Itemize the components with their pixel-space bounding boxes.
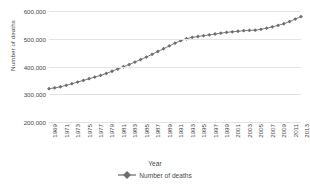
data-point-marker — [70, 82, 74, 86]
data-point-marker — [293, 17, 297, 21]
y-axis-tick-label: 600,000 — [0, 8, 46, 15]
data-point-marker — [156, 50, 160, 54]
gridline — [49, 94, 301, 95]
data-point-marker — [270, 25, 274, 29]
x-axis-tick-label: 1973 — [74, 124, 81, 138]
data-point-marker — [213, 32, 217, 36]
data-point-marker — [144, 55, 148, 59]
data-point-marker — [259, 27, 263, 31]
data-point-marker — [225, 30, 229, 34]
data-point-marker — [230, 30, 234, 34]
x-axis-tick-label: 1999 — [223, 124, 230, 138]
gridline — [49, 11, 301, 12]
data-point-marker — [99, 73, 103, 77]
x-axis-ticks: 1969197119731975197719791981198319851987… — [49, 124, 301, 158]
gridline — [49, 67, 301, 68]
x-axis-tick-label: 1987 — [154, 124, 161, 138]
x-axis-tick-label: 1989 — [166, 124, 173, 138]
data-point-marker — [150, 52, 154, 56]
x-axis-tick-label: 2005 — [257, 124, 264, 138]
data-point-marker — [162, 47, 166, 51]
x-axis-tick-label: 2011 — [292, 124, 299, 137]
data-point-marker — [47, 87, 51, 91]
x-axis-tick-label: 1985 — [143, 124, 150, 138]
x-axis-tick-label: 1971 — [63, 124, 70, 138]
data-point-marker — [265, 26, 269, 30]
data-point-marker — [207, 33, 211, 37]
x-axis-tick-label: 1993 — [189, 124, 196, 138]
x-axis-tick-label: 1975 — [86, 124, 93, 138]
data-point-marker — [64, 83, 68, 87]
data-point-marker — [288, 20, 292, 24]
data-point-marker — [253, 28, 257, 32]
data-point-marker — [76, 80, 80, 84]
data-point-marker — [248, 29, 252, 33]
data-point-marker — [276, 24, 280, 28]
x-axis-tick-label: 1983 — [131, 124, 138, 138]
data-point-marker — [236, 29, 240, 33]
x-axis-tick-label: 1969 — [51, 124, 58, 138]
x-axis-tick-label: 1981 — [120, 124, 127, 138]
y-axis-tick-label: 500,000 — [0, 35, 46, 42]
data-point-marker — [93, 75, 97, 79]
x-axis-tick-label: 2003 — [246, 124, 253, 138]
x-axis-tick-label: 2009 — [280, 124, 287, 138]
data-point-marker — [59, 85, 63, 89]
line-diamond-marker-icon — [118, 171, 136, 179]
line-chart: Number of deaths 600,000500,000400,00030… — [0, 0, 310, 189]
data-point-marker — [81, 78, 85, 82]
x-axis-tick-label: 1995 — [200, 124, 207, 138]
data-point-marker — [87, 77, 91, 81]
data-point-marker — [133, 60, 137, 64]
x-axis-tick-label: 1991 — [177, 124, 184, 138]
x-axis-tick-label: 2001 — [234, 124, 241, 138]
data-point-marker — [219, 31, 223, 35]
y-axis-tick-label: 300,000 — [0, 91, 46, 98]
data-point-marker — [173, 41, 177, 45]
data-point-marker — [110, 69, 114, 73]
data-point-marker — [299, 15, 303, 19]
x-axis-title: Year — [0, 160, 310, 167]
chart-legend: Number of deaths — [0, 171, 310, 179]
y-axis-tick-label: 400,000 — [0, 63, 46, 70]
data-point-marker — [242, 29, 246, 33]
series-line — [49, 17, 301, 89]
data-point-marker — [202, 34, 206, 38]
x-axis-tick-label: 2007 — [269, 124, 276, 138]
data-point-marker — [139, 58, 143, 62]
data-point-marker — [282, 22, 286, 26]
y-axis-tick-label: 200,000 — [0, 119, 46, 126]
legend-label-number-of-deaths: Number of deaths — [139, 172, 191, 179]
data-point-marker — [53, 86, 57, 90]
x-axis-tick-label: 1997 — [212, 124, 219, 138]
data-point-marker — [167, 44, 171, 48]
data-point-marker — [104, 72, 108, 76]
x-axis-tick-label: 2013 — [303, 124, 310, 138]
gridline — [49, 39, 301, 40]
data-point-marker — [116, 67, 120, 71]
x-axis-tick-label: 1979 — [108, 124, 115, 138]
plot-area — [49, 11, 301, 122]
x-axis-tick-label: 1977 — [97, 124, 104, 138]
